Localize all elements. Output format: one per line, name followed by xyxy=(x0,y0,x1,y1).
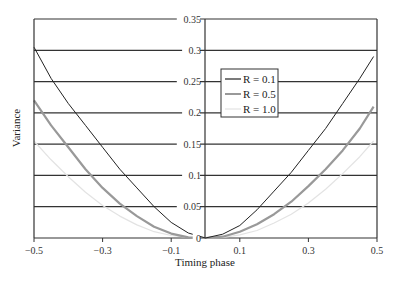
x-tick-label: −0.1 xyxy=(162,245,180,256)
x-tick-label: 0.1 xyxy=(234,245,247,256)
legend-label-r01: R = 0.1 xyxy=(243,73,276,85)
x-tick-label: 0.3 xyxy=(302,245,315,256)
x-tick-label: 0.5 xyxy=(371,245,384,256)
y-tick-label: 0.35 xyxy=(184,14,202,25)
y-axis-label: Variance xyxy=(10,109,22,148)
y-tick-label: 0 xyxy=(196,233,201,244)
legend: R = 0.1 R = 0.5 R = 1.0 xyxy=(221,69,278,117)
x-axis-label: Timing phase xyxy=(175,256,235,268)
series-line-01 xyxy=(34,47,374,238)
x-tick-label: −0.3 xyxy=(94,245,112,256)
x-tick-labels: −0.5−0.3−0.10.10.30.5 xyxy=(25,238,383,256)
x-tick-label: −0.5 xyxy=(25,245,43,256)
y-tick-label: 0.05 xyxy=(184,201,202,212)
y-tick-label: 0.3 xyxy=(189,45,202,56)
y-tick-labels: 00.050.10.150.20.250.30.35 xyxy=(177,14,201,244)
y-tick-label: 0.1 xyxy=(189,170,202,181)
y-tick-label: 0.15 xyxy=(184,139,202,150)
y-tick-label: 0.2 xyxy=(189,107,202,118)
legend-label-r05: R = 0.5 xyxy=(243,88,276,100)
legend-label-r10: R = 1.0 xyxy=(243,103,276,115)
variance-chart: 00.050.10.150.20.250.30.35 −0.5−0.3−0.10… xyxy=(0,0,399,287)
y-tick-label: 0.25 xyxy=(184,76,202,87)
series-line-05 xyxy=(34,100,374,238)
series-line-10 xyxy=(34,141,374,238)
data-series xyxy=(34,47,374,238)
